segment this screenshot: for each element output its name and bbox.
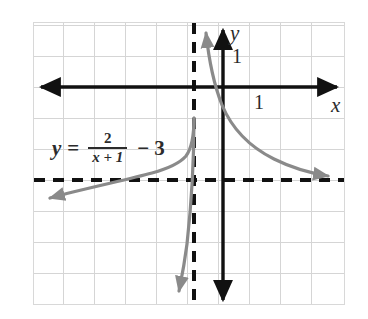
x-axis-label: x <box>331 93 340 118</box>
fraction-numerator: 2 <box>100 131 116 147</box>
equation-fraction: 2 x + 1 <box>88 131 127 165</box>
equation-constant: 3 <box>154 136 165 161</box>
y-axis-label: y <box>230 21 239 46</box>
y-tick-one-label: 1 <box>232 45 242 68</box>
equation-lhs: y <box>52 136 61 161</box>
equation-equals: = <box>67 136 79 161</box>
equation-label: y = 2 x + 1 − 3 <box>52 131 165 165</box>
figure-root: y 1 1 x y = 2 x + 1 − 3 <box>0 0 368 319</box>
plot-frame: y 1 1 x y = 2 x + 1 − 3 <box>33 22 345 305</box>
fraction-denominator: x + 1 <box>88 149 127 165</box>
x-tick-one-label: 1 <box>254 91 264 114</box>
equation-minus: − <box>137 136 149 161</box>
